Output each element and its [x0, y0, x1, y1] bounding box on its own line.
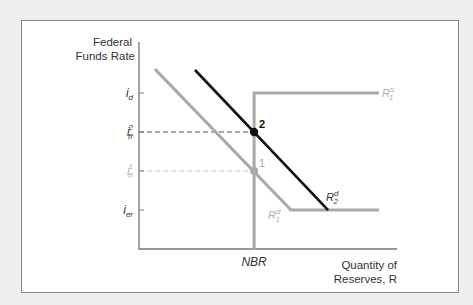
curve-label-r2d: Rd2: [326, 189, 339, 206]
curve-label-r1s: Rs1: [382, 85, 394, 102]
y-tick-label-i-d: id: [126, 86, 134, 102]
x-axis-title-line1: Quantity of: [341, 259, 397, 271]
equilibrium-point-1: [250, 167, 258, 175]
equilibrium-label-2: 2: [259, 118, 265, 130]
curve-r1d: [155, 69, 379, 210]
equilibrium-point-2: [250, 128, 258, 136]
x-axis-title-line2: Reserves, R: [334, 273, 397, 285]
curve-r1s: [254, 93, 379, 249]
x-tick-label-nbr: NBR: [241, 255, 267, 269]
y-tick-label-i-er: ier: [123, 203, 133, 219]
y-tick-label-i-ff-2: i2ff: [127, 123, 134, 141]
equilibrium-label-1: 1: [259, 157, 265, 169]
y-tick-label-i-ff-1: i1ff: [127, 162, 133, 180]
y-axis-title-line2: Funds Rate: [76, 50, 135, 62]
curve-label-r1d: Rd1: [268, 207, 281, 224]
curve-r2d: [195, 70, 328, 210]
y-axis-title-line1: Federal: [93, 36, 132, 48]
chart-svg: Federal Funds Rate Quantity of Reserves,…: [0, 0, 473, 305]
